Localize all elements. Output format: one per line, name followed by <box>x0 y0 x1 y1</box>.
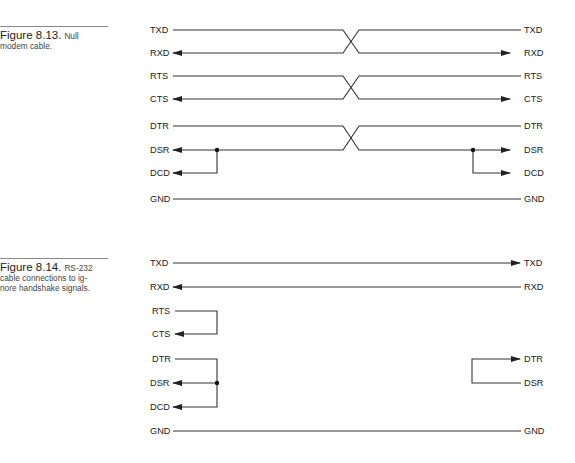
left-label-gnd: GND <box>150 426 171 436</box>
wire-rts-cts-loopback <box>175 311 217 334</box>
wire-dtr-to-dsr <box>173 126 510 150</box>
wire-dsr-dcd-right <box>473 150 510 173</box>
left-label-rts: RTS <box>150 71 168 81</box>
right-label-cts: CTS <box>524 94 542 104</box>
wire-dtr-to-dsr-reverse <box>173 126 521 150</box>
left-label-gnd: GND <box>150 194 171 204</box>
junction-dot <box>215 148 219 152</box>
right-label-dsr: DSR <box>524 145 544 155</box>
right-label-dtr: DTR <box>524 121 543 131</box>
left-label-rxd: RXD <box>150 282 170 292</box>
left-label-dtr: DTR <box>152 354 171 364</box>
left-label-dsr: DSR <box>150 378 170 388</box>
right-label-txd: TXD <box>524 258 543 268</box>
left-label-cts: CTS <box>152 329 170 339</box>
left-label-rts: RTS <box>152 306 170 316</box>
wire-rts-to-cts <box>173 76 510 99</box>
left-label-txd: TXD <box>150 25 169 35</box>
junction-dot <box>215 381 219 385</box>
right-label-rxd: RXD <box>524 282 544 292</box>
left-label-dtr: DTR <box>150 121 169 131</box>
left-label-dsr: DSR <box>150 145 170 155</box>
right-label-txd: TXD <box>524 25 543 35</box>
right-label-dcd: DCD <box>524 168 544 178</box>
wire-txd-to-rxd <box>173 30 510 53</box>
wire-dsr-dcd-left <box>173 150 217 173</box>
junction-dot <box>471 148 475 152</box>
wire-txd-to-rxd-reverse <box>173 30 521 53</box>
right-label-rxd: RXD <box>524 48 544 58</box>
cable-diagrams: TXD RXD RTS CTS DTR DSR DCD GND TXD RXD … <box>0 0 575 463</box>
left-label-cts: CTS <box>150 94 168 104</box>
right-label-gnd: GND <box>524 194 545 204</box>
left-label-dcd: DCD <box>150 402 170 412</box>
left-label-rxd: RXD <box>150 48 170 58</box>
right-label-gnd: GND <box>524 426 545 436</box>
right-label-dsr: DSR <box>524 378 544 388</box>
left-label-txd: TXD <box>150 258 169 268</box>
right-label-dtr: DTR <box>524 354 543 364</box>
left-label-dcd: DCD <box>150 168 170 178</box>
right-label-rts: RTS <box>524 71 542 81</box>
wire-rts-to-cts-reverse <box>173 76 521 99</box>
null-modem-diagram: TXD RXD RTS CTS DTR DSR DCD GND TXD RXD … <box>150 25 545 204</box>
handshake-ignore-diagram: TXD RXD RTS CTS DTR DSR DCD GND TXD RXD … <box>150 258 545 436</box>
wire-dsr-dtr-right-loopback <box>472 359 521 383</box>
